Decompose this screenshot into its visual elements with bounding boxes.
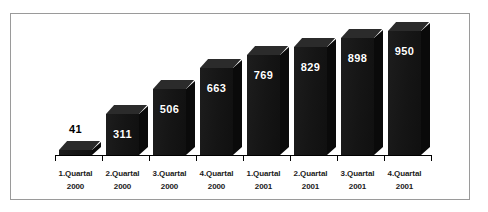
axis-tick-end [431,155,432,161]
category-year: 2001 [379,180,431,193]
category-year: 2001 [332,180,384,193]
category-quarter: 4.Quartal [191,167,243,180]
bar-side-face [421,23,430,155]
bar-side-face [280,47,289,155]
category-label-1: 1.Quartal2000 [50,167,102,193]
bar-value-label-1: 41 [53,124,98,135]
bar-side-face [327,39,336,155]
bar-side-face [374,30,383,155]
category-quarter: 1.Quartal [238,167,290,180]
category-year: 2000 [144,180,196,193]
category-year: 2001 [285,180,337,193]
bar-value-label-8: 950 [388,46,421,57]
category-label-7: 3.Quartal2001 [332,167,384,193]
category-year: 2001 [238,180,290,193]
bar-side-face [233,60,242,155]
bar-side-face [139,106,148,155]
category-label-2: 2.Quartal2000 [97,167,149,193]
category-year: 2000 [50,180,102,193]
axis-tick-2 [102,155,103,161]
category-quarter: 1.Quartal [50,167,102,180]
category-year: 2000 [191,180,243,193]
category-quarter: 2.Quartal [285,167,337,180]
axis-tick-8 [384,155,385,161]
bar-front-face [153,89,186,155]
category-label-4: 4.Quartal2000 [191,167,243,193]
category-label-5: 1.Quartal2001 [238,167,290,193]
axis-tick-3 [149,155,150,161]
axis-tick-4 [196,155,197,161]
category-quarter: 4.Quartal [379,167,431,180]
axis-tick-1 [55,155,56,161]
bar-value-label-7: 898 [341,53,374,64]
chart-frame: 41311506663769829898950 1.Quartal20002.Q… [10,13,470,200]
category-year: 2000 [97,180,149,193]
category-label-6: 2.Quartal2001 [285,167,337,193]
category-quarter: 3.Quartal [332,167,384,180]
axis-tick-6 [290,155,291,161]
bar-value-label-2: 311 [106,129,139,140]
category-quarter: 2.Quartal [97,167,149,180]
bar-side-face [186,81,195,155]
bar-value-label-6: 829 [294,62,327,73]
bar-value-label-3: 506 [153,104,186,115]
category-label-8: 4.Quartal2001 [379,167,431,193]
bar-value-label-4: 663 [200,83,233,94]
category-label-3: 3.Quartal2000 [144,167,196,193]
axis-tick-5 [243,155,244,161]
axis-tick-7 [337,155,338,161]
category-quarter: 3.Quartal [144,167,196,180]
bar-value-label-5: 769 [247,70,280,81]
plot-area: 41311506663769829898950 1.Quartal20002.Q… [11,14,469,199]
